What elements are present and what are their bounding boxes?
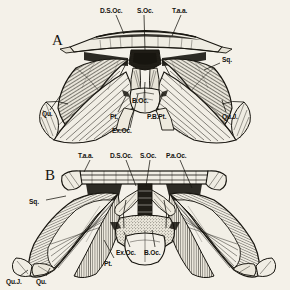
label-taa-b: T.a.a. — [78, 152, 94, 159]
label-pbpt-a: P.B.Pt. — [147, 113, 167, 120]
figure-a-letter: A — [52, 32, 63, 48]
figure-b-letter: B — [45, 167, 55, 183]
label-taa-a: T.a.a. — [172, 7, 188, 14]
label-sq-a: Sq. — [222, 56, 232, 64]
label-exoc-b: Ex.Oc. — [116, 249, 136, 256]
label-qu-b: Qu. — [36, 278, 47, 286]
label-soc-a: S.Oc. — [137, 7, 153, 14]
label-dsoc-b: D.S.Oc. — [110, 152, 133, 159]
label-quj-a: Qu.J. — [222, 113, 238, 121]
label-dsoc-a: D.S.Oc. — [100, 7, 123, 14]
label-quj-b: Qu.J. — [6, 278, 22, 286]
label-pt-a: Pt. — [110, 113, 118, 120]
label-boc-b: B.Oc. — [144, 249, 161, 256]
label-qu-a: Qu. — [42, 110, 53, 118]
illustration-plate: A D.S.Oc. S.Oc. T.a.a. Sq. Qu.J. Qu. Pt.… — [0, 0, 290, 290]
label-paroc-b: P.a.Oc. — [166, 152, 187, 159]
label-sq-b: Sq. — [29, 198, 39, 206]
plate-svg: A D.S.Oc. S.Oc. T.a.a. Sq. Qu.J. Qu. Pt.… — [0, 0, 290, 290]
label-boc-a: B.Oc. — [132, 97, 149, 104]
label-exoc-a: Ex.Oc. — [112, 127, 132, 134]
label-soc-b: S.Oc. — [140, 152, 156, 159]
label-pt-b: Pt. — [104, 260, 112, 267]
